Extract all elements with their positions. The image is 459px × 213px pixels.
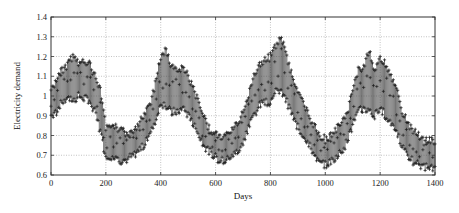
- y-tick-label: 1.1: [36, 71, 47, 81]
- y-tick-label: 0.9: [36, 111, 47, 121]
- electricity-demand-chart: 0200400600800100012001400 0.60.70.80.911…: [0, 0, 459, 213]
- x-tick-label: 400: [154, 178, 167, 188]
- x-tick-label: 1200: [372, 178, 389, 188]
- y-tick-label: 0.6: [36, 170, 47, 180]
- x-tick-label: 200: [99, 178, 112, 188]
- y-axis-title: Electricity demand: [12, 61, 22, 130]
- y-tick-label: 1.3: [36, 32, 47, 42]
- x-tick-label: 1400: [427, 178, 444, 188]
- x-tick-label: 0: [49, 178, 53, 188]
- x-tick-label: 800: [264, 178, 277, 188]
- y-tick-label: 0.8: [36, 131, 47, 141]
- y-tick-label: 1.2: [36, 52, 47, 62]
- x-tick-label: 1000: [317, 178, 334, 188]
- y-tick-label: 1.4: [36, 12, 47, 22]
- y-tick-label: 0.7: [36, 150, 47, 160]
- x-tick-label: 600: [209, 178, 222, 188]
- x-axis-title: Days: [234, 191, 253, 201]
- grid-lines: [51, 17, 435, 175]
- y-tick-label: 1: [43, 91, 47, 101]
